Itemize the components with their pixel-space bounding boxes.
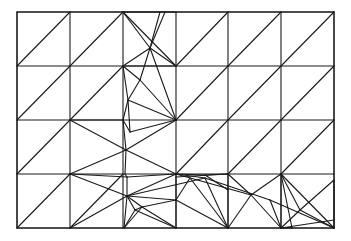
mesh-edge <box>176 200 228 228</box>
mesh-edge <box>70 174 127 196</box>
mesh-edge <box>251 195 281 228</box>
mesh-edge <box>135 210 176 228</box>
mesh-edge <box>150 48 176 120</box>
mesh-edge <box>127 196 142 207</box>
mesh-edge <box>300 210 334 228</box>
mesh-edge <box>281 120 334 174</box>
mesh-edge <box>127 196 135 210</box>
mesh-edge <box>251 174 281 195</box>
mesh-edge <box>17 12 70 66</box>
mesh-edge <box>128 80 140 100</box>
mesh-edge <box>176 178 190 200</box>
mesh-edge <box>140 48 150 80</box>
mesh-edge <box>300 180 334 210</box>
mesh-edge <box>70 196 127 228</box>
mesh-edge <box>140 80 176 120</box>
mesh-edge <box>205 175 228 190</box>
mesh-edge <box>150 48 176 66</box>
mesh-edge <box>228 66 281 120</box>
mesh-edge <box>123 66 140 80</box>
mesh-edge <box>228 120 281 174</box>
mesh-edge <box>17 120 70 174</box>
mesh-edge <box>228 195 251 228</box>
mesh-edge <box>70 66 123 120</box>
mesh-edge <box>142 200 176 207</box>
mesh-edge <box>150 12 165 48</box>
mesh-edge <box>70 174 123 228</box>
mesh-edge <box>281 174 292 228</box>
mesh-edge <box>17 66 70 120</box>
mesh-edge <box>17 174 70 228</box>
mesh-edge <box>176 12 228 66</box>
mesh-edge <box>127 196 176 200</box>
mesh-edge <box>70 12 123 66</box>
mesh-edge <box>123 100 128 120</box>
mesh-edge <box>281 174 300 210</box>
mesh-edge <box>176 120 228 174</box>
mesh-edge <box>123 12 150 48</box>
mesh-edge <box>128 100 176 120</box>
mesh-edge <box>70 120 126 150</box>
mesh-edge <box>123 48 150 66</box>
mesh-edge <box>150 12 160 48</box>
mesh-edge <box>123 66 128 100</box>
mesh-edge <box>281 66 334 120</box>
mesh-edge <box>126 120 176 150</box>
mesh-edge <box>123 12 176 66</box>
mesh-edge <box>130 120 176 132</box>
mesh-edge <box>127 178 205 196</box>
mesh-edge <box>228 12 281 66</box>
mesh-edge <box>176 66 228 120</box>
mesh-edge <box>142 207 176 228</box>
mesh-edge <box>125 150 126 174</box>
mesh-edge <box>127 174 176 196</box>
mesh-edge <box>124 207 142 228</box>
mesh-edge <box>70 150 126 174</box>
triangular-mesh-diagram <box>0 0 351 241</box>
mesh-edge <box>128 100 130 132</box>
mesh-edge <box>126 150 176 174</box>
mesh-edge <box>281 12 334 66</box>
